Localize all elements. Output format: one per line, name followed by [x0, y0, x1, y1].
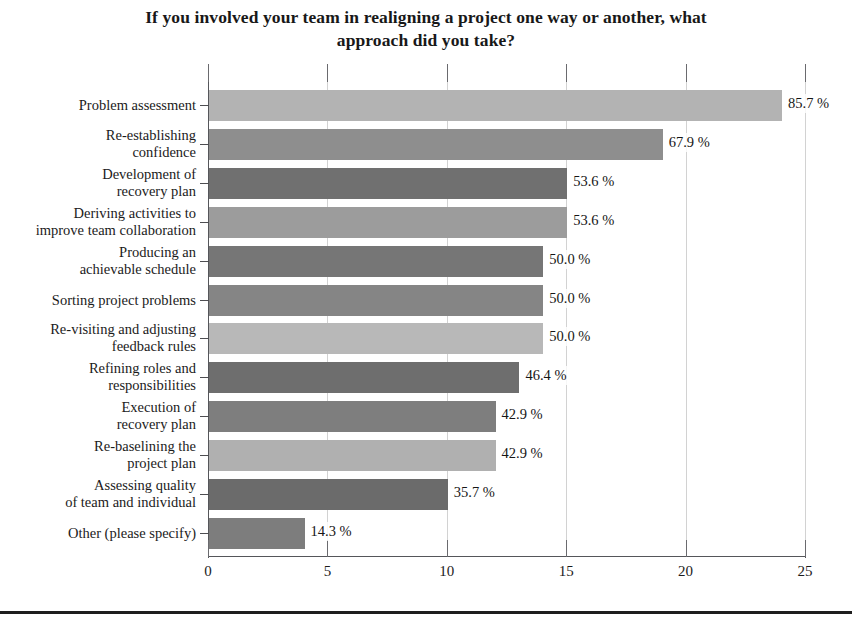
- bar-value-label: 50.0 %: [546, 327, 593, 346]
- category-label: Development ofrecovery plan: [0, 166, 196, 200]
- category-label-line: Sorting project problems: [0, 292, 196, 309]
- chart-row: Deriving activities toimprove team colla…: [0, 203, 852, 242]
- x-tick-top-20: [686, 64, 687, 82]
- x-tick-top-25: [805, 64, 806, 82]
- chart-row: Re-baselining theproject plan42.9 %: [0, 436, 852, 475]
- bar-value-label: 50.0 %: [546, 289, 593, 308]
- category-label-line: Other (please specify): [0, 525, 196, 542]
- chart-row: Sorting project problems50.0 %: [0, 281, 852, 320]
- chart-row: Re-visiting and adjustingfeedback rules5…: [0, 319, 852, 358]
- bar[interactable]: [209, 440, 496, 471]
- y-tick: [200, 338, 209, 339]
- category-label-line: of team and individual: [0, 494, 196, 511]
- y-tick: [200, 261, 209, 262]
- category-label: Deriving activities toimprove team colla…: [0, 205, 196, 239]
- category-label-line: Problem assessment: [0, 97, 196, 114]
- category-label-line: recovery plan: [0, 183, 196, 200]
- x-tick-label-25: 25: [798, 563, 813, 580]
- category-label-line: improve team collaboration: [0, 222, 196, 239]
- bar-value-label: 42.9 %: [499, 405, 546, 424]
- bar[interactable]: [209, 246, 543, 277]
- bar-value-label: 53.6 %: [570, 172, 617, 191]
- x-tick-label-15: 15: [559, 563, 574, 580]
- bar-value-label: 67.9 %: [666, 133, 713, 152]
- bar-value-label: 14.3 %: [308, 522, 355, 541]
- category-label-line: Re-baselining the: [0, 438, 196, 455]
- y-tick: [200, 144, 209, 145]
- x-tick-top-15: [566, 64, 567, 82]
- bar[interactable]: [209, 362, 519, 393]
- category-label: Refining roles andresponsibilities: [0, 360, 196, 394]
- category-label: Producing anachievable schedule: [0, 244, 196, 278]
- bar[interactable]: [209, 168, 567, 199]
- bar[interactable]: [209, 90, 782, 121]
- bar-value-label: 53.6 %: [570, 211, 617, 230]
- x-tick-top-5: [327, 64, 328, 82]
- footer-divider: [0, 611, 852, 614]
- chart-row: Problem assessment85.7 %: [0, 86, 852, 125]
- category-label-line: feedback rules: [0, 338, 196, 355]
- chart-row: Producing anachievable schedule50.0 %: [0, 242, 852, 281]
- chart-row: Development ofrecovery plan53.6 %: [0, 164, 852, 203]
- y-tick: [200, 494, 209, 495]
- category-label-line: responsibilities: [0, 377, 196, 394]
- bar-value-label: 46.4 %: [522, 366, 569, 385]
- category-label: Problem assessment: [0, 97, 196, 114]
- y-tick: [200, 377, 209, 378]
- y-tick: [200, 300, 209, 301]
- category-label-line: project plan: [0, 455, 196, 472]
- bar[interactable]: [209, 323, 543, 354]
- bar-value-label: 85.7 %: [785, 94, 832, 113]
- category-label-line: Assessing quality: [0, 477, 196, 494]
- category-label: Assessing qualityof team and individual: [0, 477, 196, 511]
- category-label-line: Re-establishing: [0, 127, 196, 144]
- category-label-line: Re-visiting and adjusting: [0, 321, 196, 338]
- category-label-line: achievable schedule: [0, 261, 196, 278]
- y-tick: [200, 533, 209, 534]
- y-tick: [200, 105, 209, 106]
- x-tick-label-5: 5: [324, 563, 332, 580]
- y-tick: [200, 416, 209, 417]
- bar-value-label: 42.9 %: [499, 444, 546, 463]
- chart-row: Refining roles andresponsibilities46.4 %: [0, 358, 852, 397]
- category-label-line: confidence: [0, 144, 196, 161]
- bar[interactable]: [209, 518, 305, 549]
- category-label-line: Execution of: [0, 399, 196, 416]
- category-label-line: recovery plan: [0, 416, 196, 433]
- chart-row: Assessing qualityof team and individual3…: [0, 475, 852, 514]
- category-label-line: Producing an: [0, 244, 196, 261]
- bar[interactable]: [209, 129, 663, 160]
- category-label: Sorting project problems: [0, 292, 196, 309]
- x-tick-top-10: [447, 64, 448, 82]
- chart-row: Re-establishingconfidence67.9 %: [0, 125, 852, 164]
- category-label-line: Development of: [0, 166, 196, 183]
- x-axis-line: [208, 556, 806, 557]
- category-label-line: Refining roles and: [0, 360, 196, 377]
- x-tick-label-20: 20: [678, 563, 693, 580]
- y-tick: [200, 183, 209, 184]
- bar-value-label: 35.7 %: [451, 483, 498, 502]
- category-label-line: Deriving activities to: [0, 205, 196, 222]
- category-label: Execution ofrecovery plan: [0, 399, 196, 433]
- chart-row: Execution ofrecovery plan42.9 %: [0, 397, 852, 436]
- bar[interactable]: [209, 479, 448, 510]
- category-label: Re-baselining theproject plan: [0, 438, 196, 472]
- chart-row: Other (please specify)14.3 %: [0, 514, 852, 553]
- x-tick-top-0: [208, 64, 209, 82]
- category-label: Re-establishingconfidence: [0, 127, 196, 161]
- x-tick-label-10: 10: [439, 563, 454, 580]
- y-tick: [200, 222, 209, 223]
- y-tick: [200, 455, 209, 456]
- category-label: Re-visiting and adjustingfeedback rules: [0, 321, 196, 355]
- bar[interactable]: [209, 285, 543, 316]
- x-tick-label-0: 0: [204, 563, 212, 580]
- bar-value-label: 50.0 %: [546, 250, 593, 269]
- category-label: Other (please specify): [0, 525, 196, 542]
- bar[interactable]: [209, 401, 496, 432]
- chart-title: If you involved your team in realigning …: [126, 6, 726, 52]
- bar[interactable]: [209, 207, 567, 238]
- chart-figure: If you involved your team in realigning …: [0, 0, 852, 628]
